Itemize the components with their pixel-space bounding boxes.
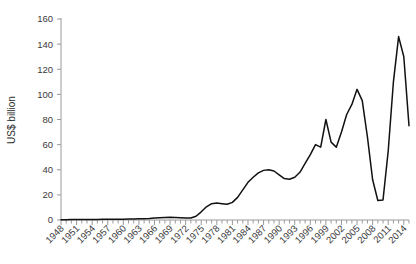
y-tick-label: 60	[42, 139, 53, 150]
y-axis-title: US$ billion	[6, 96, 17, 144]
series-line	[61, 37, 409, 220]
x-axis: 1948195119541957196019631966196919721975…	[43, 220, 409, 245]
x-tick-label: 2014	[386, 223, 409, 246]
y-tick-label: 120	[37, 64, 53, 75]
y-tick-label: 40	[42, 164, 53, 175]
y-tick-label: 140	[37, 39, 53, 50]
line-chart: 020406080100120140160 194819511954195719…	[0, 0, 416, 264]
y-axis: 020406080100120140160	[37, 13, 61, 225]
data-series	[61, 37, 409, 220]
y-tick-label: 100	[37, 89, 53, 100]
y-tick-label: 160	[37, 13, 53, 24]
y-tick-label: 20	[42, 189, 53, 200]
y-tick-label: 80	[42, 114, 53, 125]
y-tick-label: 0	[48, 214, 53, 225]
chart-container: 020406080100120140160 194819511954195719…	[0, 0, 416, 264]
